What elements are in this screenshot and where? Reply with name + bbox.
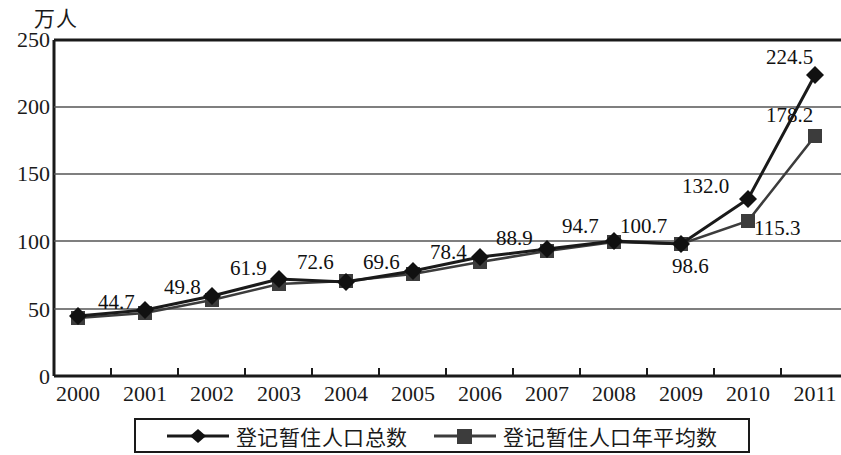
data-label-2010-total: 132.0: [682, 176, 729, 197]
chart-legend: 登记暂住人口总数 登记暂住人口年平均数: [134, 418, 750, 453]
data-label-2011-total: 224.5: [766, 47, 813, 68]
data-label-2004-total: 72.6: [297, 252, 334, 273]
legend-label-average: 登记暂住人口年平均数: [503, 421, 718, 451]
data-label-2008-total: 94.7: [562, 216, 599, 237]
data-label-2001-total: 44.7: [98, 292, 135, 313]
x-axis-tick-2000: 2000: [43, 382, 113, 406]
legend-label-total: 登记暂住人口总数: [236, 421, 408, 451]
x-axis-tick-2006: 2006: [445, 382, 515, 406]
x-axis-tick-2002: 2002: [177, 382, 247, 406]
x-axis-tick-2003: 2003: [244, 382, 314, 406]
diamond-marker-icon: [167, 427, 229, 445]
population-line-chart: 万人 250 200 150 100 50 0: [0, 0, 841, 455]
x-axis-tick-2011: 2011: [780, 382, 841, 406]
x-axis-tick-2010: 2010: [713, 382, 783, 406]
x-axis-tick-2005: 2005: [378, 382, 448, 406]
data-label-2006-total: 78.4: [430, 242, 467, 263]
data-label-2009-average: 98.6: [672, 256, 709, 277]
data-label-2007-total: 88.9: [496, 228, 533, 249]
x-axis-tick-2008: 2008: [579, 382, 649, 406]
data-label-2002-total: 49.8: [164, 277, 201, 298]
x-axis-tick-2009: 2009: [646, 382, 716, 406]
legend-item-average[interactable]: 登记暂住人口年平均数: [434, 421, 718, 451]
x-axis-tick-2007: 2007: [512, 382, 582, 406]
data-label-2010-average: 115.3: [754, 218, 800, 239]
legend-item-total[interactable]: 登记暂住人口总数: [167, 421, 408, 451]
square-marker-icon: [434, 427, 496, 445]
x-axis-tick-2004: 2004: [311, 382, 381, 406]
data-label-2003-total: 61.9: [230, 258, 267, 279]
data-label-2005-total: 69.6: [363, 252, 400, 273]
x-axis-tick-2001: 2001: [110, 382, 180, 406]
data-label-2011-average: 178.2: [766, 105, 813, 126]
data-label-2009-total: 100.7: [620, 216, 667, 237]
plot-area: [0, 0, 841, 415]
